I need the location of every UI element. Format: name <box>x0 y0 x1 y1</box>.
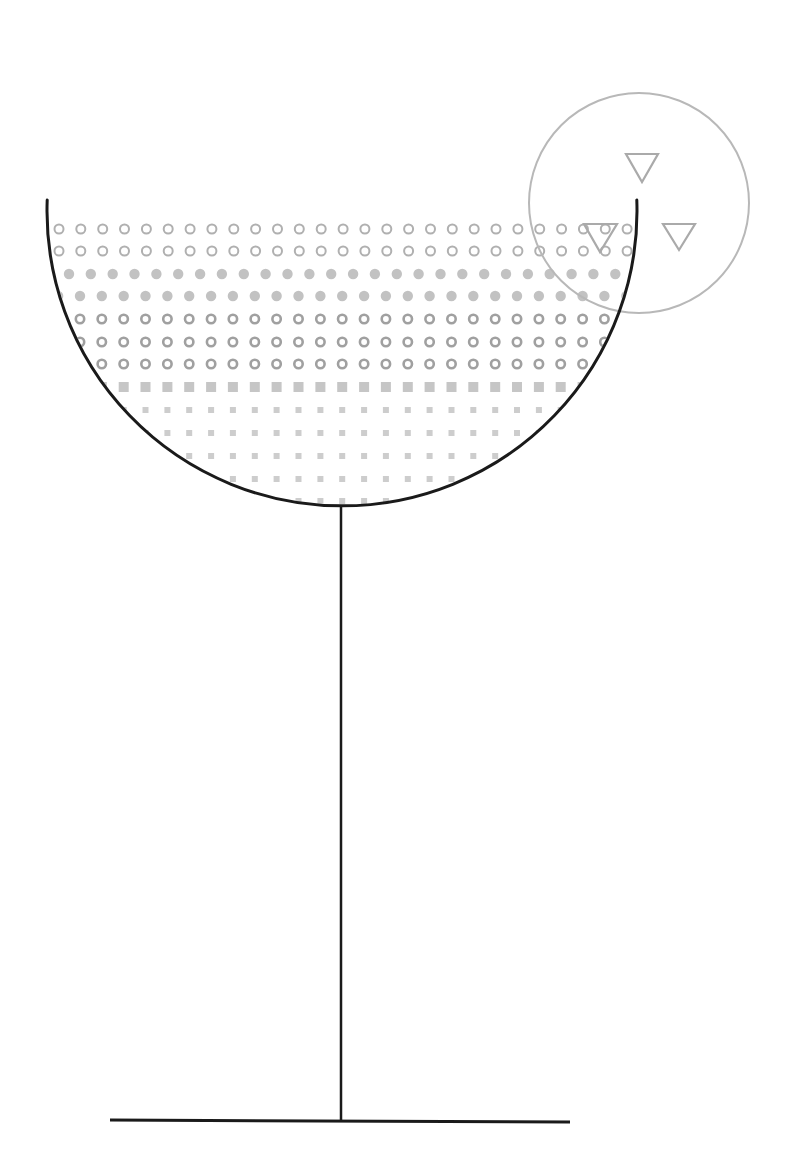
filled-dot <box>250 291 260 301</box>
square-dot <box>296 430 302 436</box>
filled-dot <box>501 269 511 279</box>
square-dot <box>427 407 433 413</box>
cocktail-glass-illustration <box>0 0 790 1164</box>
square-dot <box>230 430 236 436</box>
square-dot <box>339 407 345 413</box>
filled-dot <box>588 269 598 279</box>
square-dot <box>162 382 172 392</box>
square-dot <box>315 382 325 392</box>
square-dot <box>470 407 476 413</box>
filled-dot <box>534 291 544 301</box>
square-dot <box>186 407 192 413</box>
filled-dot <box>556 291 566 301</box>
filled-dot <box>403 291 413 301</box>
square-dot <box>339 498 345 504</box>
square-dot <box>274 407 280 413</box>
filled-dot <box>446 291 456 301</box>
square-dot <box>143 407 149 413</box>
square-dot <box>514 430 520 436</box>
square-dot <box>490 382 500 392</box>
square-dot <box>252 476 258 482</box>
square-dot <box>361 453 367 459</box>
square-dot <box>296 407 302 413</box>
filled-dot <box>119 291 129 301</box>
square-dot <box>230 453 236 459</box>
square-dot <box>468 382 478 392</box>
filled-dot <box>173 269 183 279</box>
square-dot <box>449 476 455 482</box>
filled-dot <box>392 269 402 279</box>
filled-dot <box>359 291 369 301</box>
square-dot <box>361 498 367 504</box>
square-dot <box>141 382 151 392</box>
filled-dot <box>293 291 303 301</box>
filled-dot <box>86 269 96 279</box>
filled-dot <box>348 269 358 279</box>
square-dot <box>447 382 457 392</box>
square-dot <box>252 453 258 459</box>
square-dot <box>317 430 323 436</box>
square-dot <box>250 382 260 392</box>
square-dot <box>317 476 323 482</box>
filled-dot <box>217 269 227 279</box>
square-dot <box>339 453 345 459</box>
square-dot <box>556 382 566 392</box>
background <box>0 0 790 1164</box>
filled-dot <box>140 291 150 301</box>
filled-dot <box>304 269 314 279</box>
square-dot <box>492 430 498 436</box>
square-dot <box>470 430 476 436</box>
square-dot <box>164 407 170 413</box>
square-dot <box>230 407 236 413</box>
filled-dot <box>468 291 478 301</box>
filled-dot <box>326 269 336 279</box>
square-dot <box>361 430 367 436</box>
square-dot <box>317 407 323 413</box>
square-dot <box>296 476 302 482</box>
square-dot <box>427 476 433 482</box>
square-dot <box>449 453 455 459</box>
square-dot <box>514 407 520 413</box>
square-dot <box>274 430 280 436</box>
square-dot <box>339 430 345 436</box>
square-dot <box>361 476 367 482</box>
filled-dot <box>599 291 609 301</box>
square-dot <box>296 453 302 459</box>
filled-dot <box>337 291 347 301</box>
square-dot <box>252 430 258 436</box>
filled-dot <box>370 269 380 279</box>
square-dot <box>184 382 194 392</box>
square-dot <box>427 453 433 459</box>
filled-dot <box>435 269 445 279</box>
square-dot <box>164 430 170 436</box>
square-dot <box>361 407 367 413</box>
square-dot <box>274 476 280 482</box>
square-dot <box>208 430 214 436</box>
filled-dot <box>282 269 292 279</box>
filled-dot <box>228 291 238 301</box>
square-dot <box>425 382 435 392</box>
square-dot <box>449 407 455 413</box>
filled-dot <box>184 291 194 301</box>
square-dot <box>405 476 411 482</box>
square-dot <box>359 382 369 392</box>
square-dot <box>534 382 544 392</box>
square-dot <box>383 430 389 436</box>
square-dot <box>294 382 304 392</box>
filled-dot <box>195 269 205 279</box>
square-dot <box>405 453 411 459</box>
filled-dot <box>162 291 172 301</box>
square-dot <box>230 476 236 482</box>
square-dot <box>427 430 433 436</box>
filled-dot <box>239 269 249 279</box>
square-dot <box>272 382 282 392</box>
square-dot <box>337 382 347 392</box>
square-dot <box>186 430 192 436</box>
square-dot <box>119 382 129 392</box>
square-dot <box>405 430 411 436</box>
filled-dot <box>479 269 489 279</box>
square-dot <box>317 453 323 459</box>
filled-dot <box>206 291 216 301</box>
square-dot <box>403 382 413 392</box>
filled-dot <box>75 291 85 301</box>
